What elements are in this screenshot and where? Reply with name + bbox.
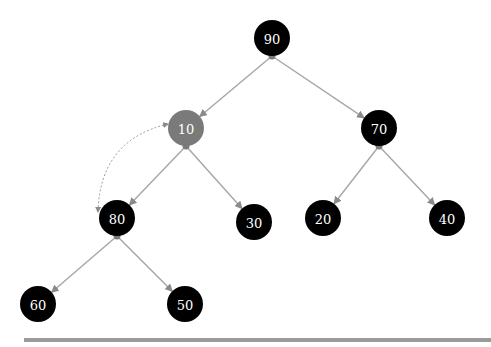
tree-node-40: 40 xyxy=(429,200,465,236)
edge-10-to-80 xyxy=(129,146,186,205)
tree-node-20: 20 xyxy=(305,200,341,236)
node-label: 50 xyxy=(177,298,194,313)
edge-10-to-30 xyxy=(186,146,242,209)
tree-node-80: 80 xyxy=(99,200,135,236)
tree-node-90: 90 xyxy=(254,20,290,56)
edge-70-to-40 xyxy=(379,146,435,205)
tree-node-30: 30 xyxy=(236,204,272,240)
bottom-divider xyxy=(24,338,491,342)
edge-70-to-20 xyxy=(334,146,379,204)
tree-nodes: 901070803020406050 xyxy=(20,20,465,322)
tree-diagram: 901070803020406050 xyxy=(0,0,491,347)
tree-node-10: 10 xyxy=(168,110,204,146)
node-label: 60 xyxy=(30,298,47,313)
node-label: 90 xyxy=(264,32,281,47)
edge-80-to-50 xyxy=(117,236,172,291)
swap-link-dotted-arrow xyxy=(98,124,168,212)
tree-node-50: 50 xyxy=(167,286,203,322)
node-label: 40 xyxy=(439,212,456,227)
edge-80-to-60 xyxy=(52,236,117,292)
tree-node-70: 70 xyxy=(361,110,397,146)
node-label: 10 xyxy=(178,122,195,137)
node-label: 30 xyxy=(246,216,263,231)
node-label: 70 xyxy=(371,122,388,137)
node-label: 80 xyxy=(109,212,126,227)
tree-edges xyxy=(52,56,435,292)
edge-90-to-70 xyxy=(272,56,364,118)
tree-node-60: 60 xyxy=(20,286,56,322)
edge-90-to-10 xyxy=(200,56,272,116)
node-label: 20 xyxy=(315,212,332,227)
